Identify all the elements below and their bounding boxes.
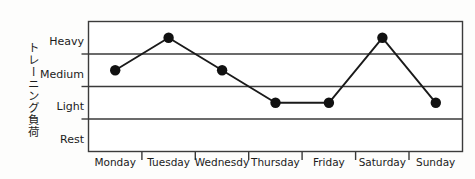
x-axis-tick-labels: Monday Tuesday Wednesdy Thursday Friday …: [0, 0, 475, 179]
x-tick-tuesday: Tuesday: [147, 156, 190, 168]
x-tick-monday: Monday: [94, 156, 135, 168]
x-tick-thursday: Thursday: [251, 156, 300, 168]
x-tick-wednesday: Wednesdy: [195, 156, 249, 168]
training-load-chart: トレーニング負荷 Heavy Medium Light Rest: [0, 0, 475, 179]
x-tick-friday: Friday: [313, 156, 345, 168]
x-tick-sunday: Sunday: [416, 156, 455, 168]
x-tick-saturday: Saturday: [359, 156, 406, 168]
